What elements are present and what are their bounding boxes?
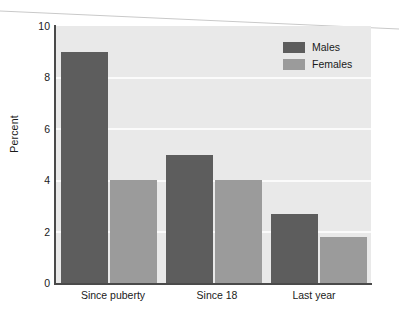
chart-legend: Males Females bbox=[283, 40, 352, 74]
bar-males-since-puberty bbox=[61, 52, 108, 283]
x-axis-line bbox=[54, 283, 372, 285]
y-tick-label: 10 bbox=[24, 21, 50, 32]
y-tick-label: 0 bbox=[24, 278, 50, 289]
y-axis-title: Percent bbox=[8, 104, 20, 164]
bar-males-since-18 bbox=[166, 155, 213, 284]
legend-label-males: Males bbox=[312, 42, 340, 53]
legend-swatch-females-icon bbox=[283, 59, 305, 70]
x-tick-label-since-18: Since 18 bbox=[169, 290, 265, 301]
bar-females-last-year bbox=[320, 237, 367, 283]
y-tick-label: 6 bbox=[24, 124, 50, 135]
legend-item-females: Females bbox=[283, 57, 352, 72]
y-axis-line bbox=[54, 25, 56, 284]
legend-item-males: Males bbox=[283, 40, 352, 55]
y-tick-label: 4 bbox=[24, 175, 50, 186]
x-tick-label-last-year: Last year bbox=[266, 290, 362, 301]
legend-label-females: Females bbox=[312, 59, 352, 70]
bar-males-last-year bbox=[271, 214, 318, 283]
chart-figure: Percent 10 8 6 4 2 0 Since puberty Since… bbox=[0, 0, 399, 317]
y-tick-label: 8 bbox=[24, 72, 50, 83]
y-axis-ticks: 10 8 6 4 2 0 bbox=[22, 0, 50, 317]
bar-females-since-puberty bbox=[110, 180, 157, 283]
x-tick-label-since-puberty: Since puberty bbox=[59, 290, 167, 301]
y-tick-label: 2 bbox=[24, 227, 50, 238]
bar-females-since-18 bbox=[215, 180, 262, 283]
legend-swatch-males-icon bbox=[283, 42, 305, 53]
